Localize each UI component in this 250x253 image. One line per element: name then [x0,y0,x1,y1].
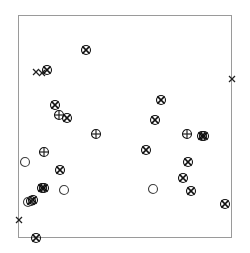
scatter-plot-figure [0,0,250,253]
plot-frame [18,15,232,238]
